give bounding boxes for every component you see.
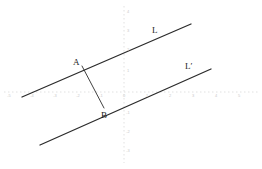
- line-label-L: L: [152, 26, 158, 35]
- y-tick-label: 1: [127, 69, 129, 73]
- x-tick-label: 4: [215, 94, 217, 98]
- x-tick-label: 2: [169, 94, 171, 98]
- diagram-canvas: [0, 0, 262, 169]
- lines-group: [22, 24, 211, 145]
- x-tick-label: -3: [53, 94, 57, 98]
- y-tick-label: 2: [127, 48, 129, 52]
- x-tick-label: 1: [146, 94, 148, 98]
- axis-group: [4, 6, 258, 163]
- y-tick-label: -2: [126, 130, 130, 134]
- x-tick-label: -4: [30, 94, 34, 98]
- y-tick-label: 4: [127, 10, 129, 14]
- y-tick-label: -1: [126, 111, 130, 115]
- x-tick-label: 0: [123, 94, 125, 98]
- line-L: [22, 24, 191, 97]
- x-tick-label: 3: [192, 94, 194, 98]
- x-tick-label: -2: [76, 94, 80, 98]
- point-label-b: B: [101, 111, 107, 120]
- line-label-L-prime: L′: [185, 62, 192, 71]
- geometry-figure: L L′ A B -5-4-3-2-1012345 4321-1-2-3: [0, 0, 262, 169]
- point-label-a: A: [73, 58, 80, 67]
- x-tick-label: -1: [99, 94, 103, 98]
- x-tick-label: -5: [7, 94, 11, 98]
- y-tick-label: -3: [126, 149, 130, 153]
- segment-ab: [82, 66, 104, 108]
- y-tick-label: 3: [127, 29, 129, 33]
- x-tick-label: 5: [238, 94, 240, 98]
